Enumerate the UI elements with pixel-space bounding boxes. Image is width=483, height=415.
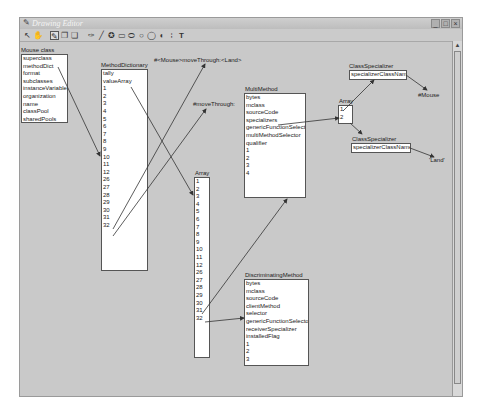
line-tool-icon[interactable]: ╱ (97, 31, 106, 40)
scroll-up-icon[interactable]: ▲ (453, 41, 462, 50)
symbol-mouse[interactable]: #Mouse (418, 92, 439, 98)
scroll-thumb[interactable] (454, 51, 461, 384)
slot: bytes (245, 280, 308, 288)
slot: sourceCode (245, 109, 305, 117)
slot: 4 (245, 170, 305, 178)
slot: 2 (245, 155, 305, 163)
slot: genericFunctionSelector (245, 124, 305, 132)
slot: 32 (195, 315, 209, 323)
circle-tool-icon[interactable]: ◯ (147, 31, 156, 40)
method-dictionary-label: MethodDictionary (101, 62, 148, 69)
slot: specializerClassName (352, 144, 410, 152)
slot: 2 (245, 348, 308, 356)
slot: 27 (195, 277, 209, 285)
slot: 30 (102, 207, 147, 215)
slot: specializerClassName (350, 71, 406, 79)
slot: 28 (195, 284, 209, 292)
slot: 3 (102, 100, 147, 108)
toolbar: ↖ ✋ ✎ ❐ ❏ ✑ ╱ ✪ ▭ ⬭ ○ ◯ ◖ ⁞ T (20, 29, 462, 41)
slot: 10 (102, 154, 147, 162)
array-small-label: Array (339, 98, 353, 105)
slot: 9 (195, 239, 209, 247)
slot: superclass (22, 55, 67, 63)
discriminating-method-object[interactable]: bytes mclass sourceCode clientMethod sel… (244, 279, 309, 366)
slot: receiverSpecializer (245, 326, 308, 334)
maximize-button[interactable]: □ (441, 19, 450, 28)
slot: 30 (195, 300, 209, 308)
paste-tool-icon[interactable]: ❏ (70, 31, 79, 40)
grid-tool-icon[interactable]: ⁞ (167, 31, 176, 40)
rounded-rect-tool-icon[interactable]: ⬭ (127, 31, 136, 40)
slot: 5 (102, 116, 147, 124)
slot: mclass (245, 102, 305, 110)
copy-tool-icon[interactable]: ❐ (60, 31, 69, 40)
rectangle-tool-icon[interactable]: ▭ (117, 31, 126, 40)
text-tool-icon[interactable]: T (177, 31, 186, 40)
slot: 1 (245, 147, 305, 155)
hand-tool-icon[interactable]: ✋ (33, 31, 42, 40)
drawing-canvas[interactable] (20, 41, 452, 396)
slot: 2 (195, 186, 209, 194)
slot: valueArray (102, 78, 147, 86)
slot: 1 (195, 178, 209, 186)
slot: 11 (195, 254, 209, 262)
slot: 8 (195, 231, 209, 239)
slot: 3 (195, 193, 209, 201)
symbol-land[interactable]: 'Land' (429, 157, 445, 163)
minimize-button[interactable]: _ (431, 19, 440, 28)
class-specializer-2-label: ClassSpecializer (352, 136, 396, 143)
slot: classPool (22, 108, 67, 116)
pen-tool-icon[interactable]: ✑ (87, 31, 96, 40)
slot: 3 (245, 356, 308, 364)
slot: 1 (245, 341, 308, 349)
close-button[interactable]: × (451, 19, 460, 28)
slot: 2 (102, 93, 147, 101)
slot: 9 (102, 146, 147, 154)
method-dictionary-object[interactable]: tally valueArray 1 2 3 4 5 6 7 8 9 10 11… (101, 69, 148, 271)
discriminating-method-label: DiscriminatingMethod (245, 272, 303, 279)
slot: 31 (195, 307, 209, 315)
window-title: Drawing Editor (32, 18, 83, 29)
fill-tool-icon[interactable]: ✪ (107, 31, 116, 40)
slot: 29 (195, 292, 209, 300)
slot: 26 (102, 176, 147, 184)
slot: 8 (102, 138, 147, 146)
slot: 4 (102, 108, 147, 116)
slot: 31 (102, 214, 147, 222)
slot: 3 (245, 162, 305, 170)
array-small-object[interactable]: 1 2 (338, 105, 353, 124)
class-specializer-2-object[interactable]: specializerClassName (351, 143, 411, 153)
slot: 4 (195, 201, 209, 209)
symbol-move-through[interactable]: #moveThrough: (193, 101, 235, 107)
mouse-class-label: Mouse class (21, 47, 54, 54)
mouse-class-object[interactable]: superclass methodDict format subclasses … (21, 54, 68, 123)
arc-tool-icon[interactable]: ◖ (157, 31, 166, 40)
slot: 5 (195, 208, 209, 216)
slot: sourceCode (245, 295, 308, 303)
multi-method-label: MultiMethod (245, 86, 278, 93)
slot: 6 (102, 123, 147, 131)
array-main-object[interactable]: 1 2 3 4 5 6 7 8 9 10 11 12 26 27 28 29 3… (194, 177, 210, 358)
slot: organization (22, 93, 67, 101)
slot: 29 (102, 199, 147, 207)
slot: genericFunctionSelector (245, 318, 308, 326)
slot: name (22, 101, 67, 109)
slot: 12 (102, 169, 147, 177)
slot: 7 (195, 224, 209, 232)
slot: 1 (339, 106, 352, 114)
symbol-mouse-move-through-land[interactable]: #<Mouse>moveThrough:<Land> (154, 57, 241, 63)
pencil-tool-icon[interactable]: ✎ (50, 31, 59, 40)
app-icon: ✎ (23, 19, 31, 27)
vertical-scrollbar[interactable]: ▲ (452, 41, 462, 396)
multi-method-object[interactable]: bytes mclass sourceCode specializers gen… (244, 93, 306, 198)
slot: 2 (339, 114, 352, 122)
slot: sharedPools (22, 116, 67, 124)
select-tool-icon[interactable]: ↖ (23, 31, 32, 40)
slot: specializers (245, 117, 305, 125)
array-main-label: Array (195, 170, 209, 177)
ellipse-tool-icon[interactable]: ○ (137, 31, 146, 40)
class-specializer-1-object[interactable]: specializerClassName (349, 70, 407, 80)
title-bar[interactable]: ✎ Drawing Editor _ □ × (20, 18, 462, 29)
slot: tally (102, 70, 147, 78)
slot: clientMethod (245, 303, 308, 311)
